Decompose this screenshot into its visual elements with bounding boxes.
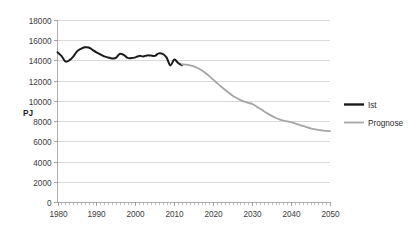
y-tick-label-4000: 4000 — [33, 159, 52, 168]
x-tick-label-2010: 2010 — [165, 210, 184, 219]
x-tick-label-1980: 1980 — [49, 210, 68, 219]
y-tick-label-6000: 6000 — [33, 138, 52, 147]
legend-label-prognose: Prognose — [368, 119, 403, 128]
x-tick-label-2020: 2020 — [204, 210, 223, 219]
y-tick-label-14000: 14000 — [29, 57, 52, 66]
x-tick-label-2000: 2000 — [126, 210, 145, 219]
y-tick-label-12000: 12000 — [29, 78, 52, 87]
x-tick-label-1990: 1990 — [87, 210, 106, 219]
y-tick-label-18000: 18000 — [29, 17, 52, 26]
y-tick-label-0: 0 — [47, 199, 52, 208]
chart-container: 0200040006000800010000120001400016000180… — [0, 0, 410, 235]
x-tick-label-2030: 2030 — [243, 210, 262, 219]
y-tick-label-2000: 2000 — [33, 179, 52, 188]
chart-background — [0, 0, 410, 235]
y-tick-label-8000: 8000 — [33, 118, 52, 127]
line-chart: 0200040006000800010000120001400016000180… — [0, 0, 410, 235]
legend-label-ist: Ist — [368, 101, 377, 110]
y-axis-title: PJ — [23, 109, 33, 118]
x-tick-label-2050: 2050 — [321, 210, 340, 219]
y-tick-label-10000: 10000 — [29, 98, 52, 107]
y-tick-label-16000: 16000 — [29, 37, 52, 46]
x-tick-label-2040: 2040 — [282, 210, 301, 219]
